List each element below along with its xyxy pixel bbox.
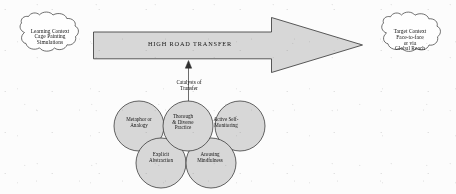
high-road-transfer-diagram <box>0 0 456 194</box>
thorough-diverse-practice-circle <box>163 101 213 151</box>
cloud-outline <box>382 12 441 51</box>
cloud-outline <box>20 12 78 51</box>
learning-context-cloud <box>20 12 78 51</box>
catalyst-connector <box>185 61 191 105</box>
diagram-canvas: Learning Context Cage Painting Simulatio… <box>0 0 456 194</box>
arrow-shape <box>94 18 363 73</box>
catalyst-circle-cluster <box>114 101 265 188</box>
connector-arrowhead <box>185 61 191 69</box>
target-context-cloud <box>382 12 441 51</box>
high-road-transfer-arrow <box>94 18 363 73</box>
